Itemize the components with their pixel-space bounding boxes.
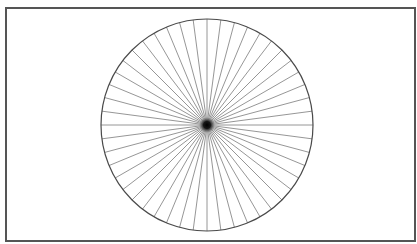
spoke-line [154,125,207,217]
spoke-line [180,125,207,227]
spoke-line [207,72,299,125]
center-dot [199,117,215,133]
siemens-star [0,0,417,244]
spoke-line [207,23,234,125]
spoke-line [207,125,282,200]
spoke-line [115,125,207,178]
spoke-line [154,33,207,125]
spoke-line [105,98,207,125]
spoke-line [207,98,309,125]
spoke-line [132,125,207,200]
spoke-line [207,125,260,217]
spoke-line [207,50,282,125]
spoke-line [207,125,299,178]
spoke-line [207,125,309,152]
spoke-line [180,23,207,125]
spoke-line [207,33,260,125]
spoke-line [115,72,207,125]
spoke-line [207,125,234,227]
figure-canvas [0,0,417,244]
spoke-line [132,50,207,125]
spoke-line [105,125,207,152]
